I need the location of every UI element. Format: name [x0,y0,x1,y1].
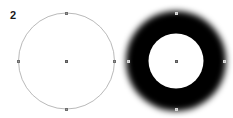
left-handle-east[interactable] [113,60,116,63]
right-handle-east[interactable] [223,60,226,63]
right-handle-north[interactable] [175,12,178,15]
right-handle-center[interactable] [175,60,178,63]
right-handle-west[interactable] [127,60,130,63]
selection-handle-layer [0,0,233,118]
left-handle-center[interactable] [65,60,68,63]
left-handle-west[interactable] [17,60,20,63]
drawing-canvas[interactable]: 2 [0,0,233,118]
right-handle-south[interactable] [175,108,178,111]
left-handle-north[interactable] [65,12,68,15]
left-handle-south[interactable] [65,108,68,111]
